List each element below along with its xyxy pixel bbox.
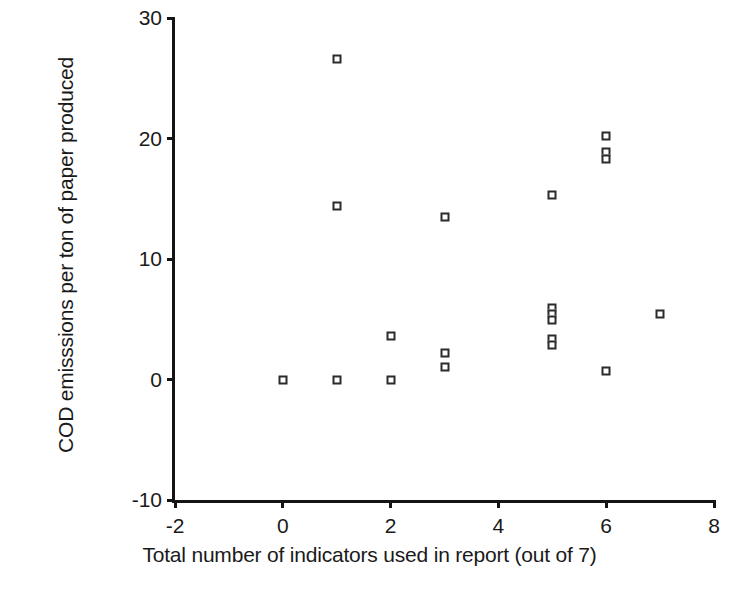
- x-tick-mark: [281, 500, 284, 508]
- y-tick-mark: [167, 137, 175, 140]
- data-point: [548, 316, 557, 325]
- data-point: [602, 154, 611, 163]
- data-point: [386, 332, 395, 341]
- data-point: [602, 367, 611, 376]
- data-point: [548, 340, 557, 349]
- y-tick-mark: [167, 378, 175, 381]
- y-tick-mark: [167, 258, 175, 261]
- data-point: [332, 201, 341, 210]
- data-point: [548, 191, 557, 200]
- x-tick-mark: [713, 500, 716, 508]
- scatter-chart-figure: COD emisssions per ton of paper produced…: [0, 0, 739, 591]
- x-tick-mark: [497, 500, 500, 508]
- x-tick-mark: [174, 500, 177, 508]
- data-point: [386, 375, 395, 384]
- data-point: [602, 132, 611, 141]
- data-point: [278, 375, 287, 384]
- data-point: [440, 212, 449, 221]
- x-tick-mark: [389, 500, 392, 508]
- x-tick-label: 0: [277, 514, 289, 538]
- data-point: [332, 54, 341, 63]
- x-tick-label: 4: [493, 514, 505, 538]
- y-tick-label: 20: [139, 127, 162, 151]
- x-axis-title: Total number of indicators used in repor…: [0, 543, 739, 567]
- x-tick-label: 2: [385, 514, 397, 538]
- y-tick-label: 10: [139, 247, 162, 271]
- data-point: [440, 348, 449, 357]
- y-tick-label: 30: [139, 6, 162, 30]
- x-tick-label: 8: [708, 514, 720, 538]
- plot-area: -100102030 -202468: [172, 18, 714, 503]
- x-tick-label: 6: [600, 514, 612, 538]
- x-tick-label: -2: [166, 514, 185, 538]
- y-axis-title: COD emisssions per ton of paper produced: [44, 0, 88, 510]
- y-tick-mark: [167, 17, 175, 20]
- data-point: [332, 375, 341, 384]
- y-tick-label: 0: [150, 368, 162, 392]
- y-tick-label: -10: [132, 488, 162, 512]
- data-point: [656, 310, 665, 319]
- x-tick-mark: [605, 500, 608, 508]
- data-point: [440, 363, 449, 372]
